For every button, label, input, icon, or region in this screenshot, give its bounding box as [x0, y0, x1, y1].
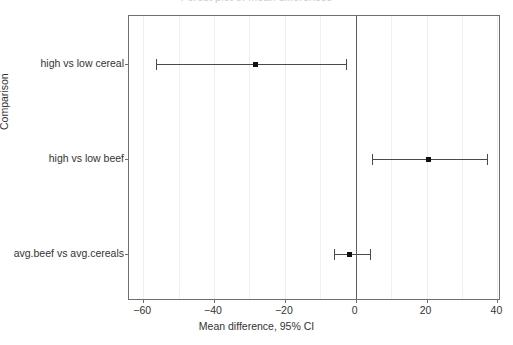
y-axis-title: Comparison — [0, 73, 10, 130]
x-axis-tick-label: 0 — [352, 304, 358, 316]
ci-cap-lower — [372, 154, 373, 165]
estimate-point-marker — [426, 157, 431, 162]
gridline — [179, 16, 180, 299]
x-axis-tick-label: 20 — [420, 304, 432, 316]
gridline — [320, 16, 321, 299]
x-axis-tick — [427, 299, 428, 303]
x-axis-title: Mean difference, 95% CI — [0, 320, 513, 332]
gridline — [214, 16, 215, 299]
x-axis-tick-label: −20 — [275, 304, 293, 316]
x-axis-tick-label: −60 — [133, 304, 151, 316]
y-axis-tick — [125, 64, 129, 65]
x-axis-tick — [285, 299, 286, 303]
x-axis-tick-label: −40 — [204, 304, 222, 316]
y-axis-tick-label: avg.beef vs avg.cereals — [4, 247, 124, 259]
gridline — [285, 16, 286, 299]
y-axis-tick — [125, 254, 129, 255]
x-axis-tick — [214, 299, 215, 303]
reference-line-zero — [356, 16, 357, 299]
gridline — [497, 16, 498, 299]
x-axis-tick — [356, 299, 357, 303]
estimate-point-marker — [253, 62, 258, 67]
figure-canvas: Forest plot of mean differences Comparis… — [0, 0, 513, 345]
ci-cap-lower — [334, 249, 335, 260]
clipped-title-text: Forest plot of mean differences — [181, 0, 332, 3]
gridline — [462, 16, 463, 299]
x-axis-tick — [497, 299, 498, 303]
y-axis-tick-label: high vs low cereal — [4, 57, 124, 69]
estimate-point-marker — [347, 252, 352, 257]
x-axis-tick-label: 40 — [491, 304, 503, 316]
ci-cap-lower — [156, 59, 157, 70]
gridline — [249, 16, 250, 299]
confidence-interval-line — [156, 64, 346, 65]
ci-cap-upper — [370, 249, 371, 260]
x-axis-tick — [143, 299, 144, 303]
gridline — [143, 16, 144, 299]
gridline — [391, 16, 392, 299]
ci-cap-upper — [346, 59, 347, 70]
confidence-interval-line — [334, 254, 369, 255]
y-axis-tick-label: high vs low beef — [4, 152, 124, 164]
clipped-title-strip: Forest plot of mean differences — [0, 0, 513, 8]
y-axis-tick — [125, 159, 129, 160]
plot-area — [128, 15, 500, 300]
ci-cap-upper — [487, 154, 488, 165]
